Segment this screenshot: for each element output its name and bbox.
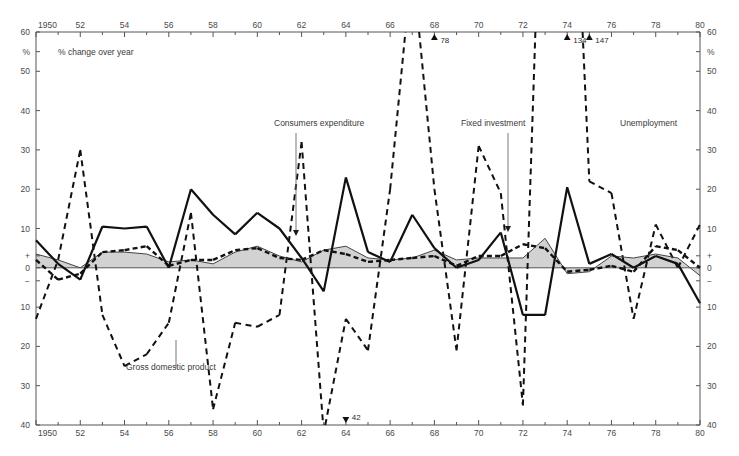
annotation-label-unemployment: Unemployment xyxy=(620,118,678,128)
x-tick-label-top: 56 xyxy=(164,20,174,30)
subtitle: % change over year xyxy=(58,41,134,59)
y-tick-label-minus-right: − xyxy=(707,276,712,286)
x-tick-label-top: 76 xyxy=(607,20,617,30)
annotation-label-fixed_investment: Fixed investment xyxy=(461,118,526,128)
x-tick-label-bottom: 76 xyxy=(607,428,617,438)
y-tick-label-right: 40 xyxy=(707,420,717,430)
y-tick-label-left: 40 xyxy=(21,106,31,116)
y-tick-label-left: 20 xyxy=(21,341,31,351)
offscale-value-147: 147 xyxy=(595,36,609,45)
y-tick-label-right: 20 xyxy=(707,341,717,351)
x-tick-label-bottom: 62 xyxy=(297,428,307,438)
offscale-value-42: 42 xyxy=(352,413,361,422)
x-tick-label-top: 78 xyxy=(651,20,661,30)
y-tick-label-plus-right: + xyxy=(707,251,712,261)
x-tick-label-bottom: 66 xyxy=(385,428,395,438)
y-tick-label-right: 0 xyxy=(707,263,712,273)
x-tick-label-bottom: 52 xyxy=(76,428,86,438)
y-tick-label-left: 20 xyxy=(21,184,31,194)
x-tick-label-top: 60 xyxy=(253,20,263,30)
offscale-value-134: 134 xyxy=(573,36,587,45)
x-tick-label-bottom: 58 xyxy=(208,428,218,438)
y-tick-label-right: 10 xyxy=(707,302,717,312)
x-tick-label-top: 64 xyxy=(341,20,351,30)
x-tick-label-bottom: 70 xyxy=(474,428,484,438)
x-tick-label-top: 80 xyxy=(695,20,705,30)
offscale-value-78: 78 xyxy=(440,36,449,45)
annotation-label-gdp: Gross domestic product xyxy=(126,362,216,372)
x-tick-label-bottom: 60 xyxy=(253,428,263,438)
x-tick-label-top: 52 xyxy=(76,20,86,30)
x-tick-label-top: 72 xyxy=(518,20,528,30)
x-tick-label-bottom: 54 xyxy=(120,428,130,438)
y-tick-label-left: 60 xyxy=(21,27,31,37)
y-tick-label-minus: − xyxy=(25,276,30,286)
chart-container: 6060505040403030202010100010102020303040… xyxy=(0,0,739,456)
x-tick-label-top: 58 xyxy=(208,20,218,30)
x-tick-label-top: 66 xyxy=(385,20,395,30)
y-tick-label-left: 40 xyxy=(21,420,31,430)
x-tick-label-top: 68 xyxy=(430,20,440,30)
x-tick-label-bottom: 80 xyxy=(695,428,705,438)
x-tick-label-bottom: 72 xyxy=(518,428,528,438)
y-tick-label-right: 60 xyxy=(707,27,717,37)
y-tick-label-left: 30 xyxy=(21,145,31,155)
y-axis-unit-right: % xyxy=(707,47,715,57)
x-tick-label-bottom: 68 xyxy=(430,428,440,438)
x-tick-label-bottom: 74 xyxy=(562,428,572,438)
y-tick-label-left: 0 xyxy=(25,263,30,273)
y-axis-unit-left: % xyxy=(22,47,30,57)
y-tick-label-left: 10 xyxy=(21,302,31,312)
y-tick-label-left: 10 xyxy=(21,224,31,234)
x-tick-label-top: 62 xyxy=(297,20,307,30)
x-tick-label-top: 54 xyxy=(120,20,130,30)
x-tick-label-bottom: 78 xyxy=(651,428,661,438)
x-tick-label-top: 70 xyxy=(474,20,484,30)
x-tick-label-top: 74 xyxy=(562,20,572,30)
y-tick-label-right: 30 xyxy=(707,381,717,391)
x-tick-label-bottom: 56 xyxy=(164,428,174,438)
x-tick-label-top: 1950 xyxy=(38,20,57,30)
x-tick-label-bottom: 64 xyxy=(341,428,351,438)
y-tick-label-right: 50 xyxy=(707,66,717,76)
y-tick-label-right: 10 xyxy=(707,224,717,234)
y-tick-label-left: 50 xyxy=(21,66,31,76)
y-tick-label-right: 20 xyxy=(707,184,717,194)
y-tick-label-left: 30 xyxy=(21,381,31,391)
y-tick-label-right: 30 xyxy=(707,145,717,155)
annotation-label-consumers: Consumers expenditure xyxy=(274,118,365,128)
subtitle-text: % change over year xyxy=(58,47,134,57)
y-tick-label-right: 40 xyxy=(707,106,717,116)
economic-indicators-line-chart: 6060505040403030202010100010102020303040… xyxy=(0,0,739,456)
x-tick-label-bottom: 1950 xyxy=(38,428,57,438)
y-tick-label-plus: + xyxy=(25,251,30,261)
